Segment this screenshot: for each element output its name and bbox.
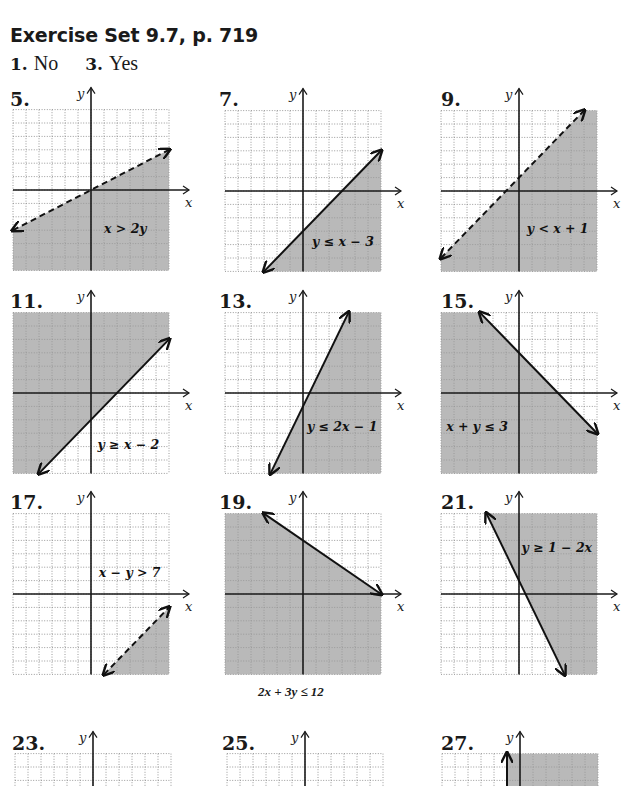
coordinate-graph: xy — [0, 0, 623, 786]
y-axis-label: y — [505, 730, 514, 745]
